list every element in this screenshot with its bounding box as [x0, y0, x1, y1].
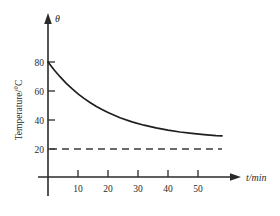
x-axis	[38, 173, 241, 181]
x-tick-label-30: 30	[133, 184, 143, 194]
x-axis-ticks	[78, 170, 198, 177]
y-axis-ticks	[48, 62, 55, 149]
x-axis-title-label: t/min	[246, 172, 267, 183]
y-axis-tick-labels: 80 60 40 20	[35, 58, 45, 155]
y-axis-title-label: Temperature/°C	[14, 80, 24, 141]
y-axis-arrowhead	[44, 13, 52, 24]
x-axis-arrowhead	[230, 173, 241, 181]
x-tick-label-40: 40	[163, 184, 173, 194]
chart-canvas: 80 60 40 20 10 20 30 40 50 θ t/min	[0, 0, 280, 216]
x-tick-label-10: 10	[73, 184, 83, 194]
y-tick-label-40: 40	[35, 116, 45, 126]
x-tick-label-20: 20	[103, 184, 113, 194]
cooling-curve-line	[48, 62, 222, 136]
y-tick-label-60: 60	[35, 87, 45, 97]
cooling-curve-chart: 80 60 40 20 10 20 30 40 50 θ t/min	[0, 0, 280, 216]
y-axis	[44, 13, 52, 196]
y-tick-label-80: 80	[35, 58, 45, 68]
y-axis-symbol-label: θ	[55, 13, 60, 24]
y-tick-label-20: 20	[35, 145, 45, 155]
x-tick-label-50: 50	[193, 184, 203, 194]
x-axis-tick-labels: 10 20 30 40 50	[73, 184, 203, 194]
